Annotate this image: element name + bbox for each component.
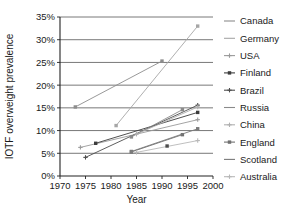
legend-label-finland: Finland <box>240 67 271 78</box>
extra-data-point-0 <box>165 144 168 147</box>
data-point-scotland-1 <box>196 127 199 130</box>
y-tick-labels-group: 0%5%10%15%20%25%30%35% <box>36 11 56 181</box>
x-tick-labels-group: 1970197519801985199019952000 <box>49 180 223 191</box>
legend-item-finland[interactable]: Finland <box>224 67 271 78</box>
data-point-scotland-0 <box>130 150 133 153</box>
legend-label-england: England <box>240 137 275 148</box>
y-tick-label-3: 15% <box>36 102 56 113</box>
x-tick-label-0: 1970 <box>49 180 70 191</box>
data-point-germany-0 <box>114 124 117 127</box>
legend-label-australia: Australia <box>240 171 278 182</box>
legend-item-scotland[interactable]: Scotland <box>224 154 277 165</box>
data-point-russia-0 <box>130 135 133 138</box>
series-finland <box>94 111 199 145</box>
legend-label-china: China <box>240 119 266 130</box>
legend-item-china[interactable]: China <box>224 119 266 130</box>
y-tick-label-2: 10% <box>36 125 56 136</box>
extra-data-points <box>165 144 168 147</box>
series-line-finland <box>96 112 198 143</box>
data-point-germany-1 <box>196 24 199 27</box>
y-tick-label-7: 35% <box>36 11 56 22</box>
y-tick-label-4: 20% <box>36 80 56 91</box>
legend-label-usa: USA <box>240 50 260 61</box>
data-point-russia-1 <box>181 108 184 111</box>
y-tick-label-6: 30% <box>36 34 56 45</box>
legend: CanadaGermanyUSAFinlandBrazilRussiaChina… <box>224 15 279 182</box>
x-tick-label-4: 1990 <box>151 180 172 191</box>
y-tick-label-5: 25% <box>36 57 56 68</box>
chart-container: 0%5%10%15%20%25%30%35% 19701975198019851… <box>0 0 296 217</box>
x-axis-title: Year <box>126 194 147 205</box>
legend-item-germany[interactable]: Germany <box>224 33 279 44</box>
legend-label-brazil: Brazil <box>240 85 264 96</box>
legend-label-canada: Canada <box>240 15 274 26</box>
legend-item-usa[interactable]: USA <box>224 50 260 61</box>
legend-item-russia[interactable]: Russia <box>224 102 270 113</box>
x-tick-label-1: 1975 <box>75 180 96 191</box>
data-series-group <box>74 24 200 159</box>
legend-item-brazil[interactable]: Brazil <box>224 85 264 96</box>
x-tick-label-2: 1980 <box>100 180 121 191</box>
legend-label-russia: Russia <box>240 102 270 113</box>
data-point-finland-0 <box>94 142 97 145</box>
series-line-canada <box>75 61 162 107</box>
x-tick-label-5: 1995 <box>177 180 198 191</box>
legend-item-england[interactable]: England <box>224 137 275 148</box>
series-line-england <box>131 135 182 152</box>
y-tick-label-1: 5% <box>41 148 55 159</box>
x-tick-label-3: 1985 <box>126 180 147 191</box>
iotf-overweight-prevalence-line-chart: 0%5%10%15%20%25%30%35% 19701975198019851… <box>0 0 296 217</box>
legend-marker-finland <box>228 71 231 74</box>
x-tick-label-6: 2000 <box>202 180 223 191</box>
axis-ticks-group <box>57 17 213 179</box>
legend-label-germany: Germany <box>240 33 279 44</box>
legend-marker-england <box>228 140 231 143</box>
series-line-china <box>137 107 198 134</box>
data-point-finland-1 <box>196 111 199 114</box>
y-axis-title: IOTF overweight prevalence <box>4 33 15 159</box>
data-point-canada-0 <box>74 105 77 108</box>
legend-item-canada[interactable]: Canada <box>224 15 274 26</box>
legend-label-scotland: Scotland <box>240 154 277 165</box>
legend-item-australia[interactable]: Australia <box>224 171 278 182</box>
data-point-canada-1 <box>160 59 163 62</box>
